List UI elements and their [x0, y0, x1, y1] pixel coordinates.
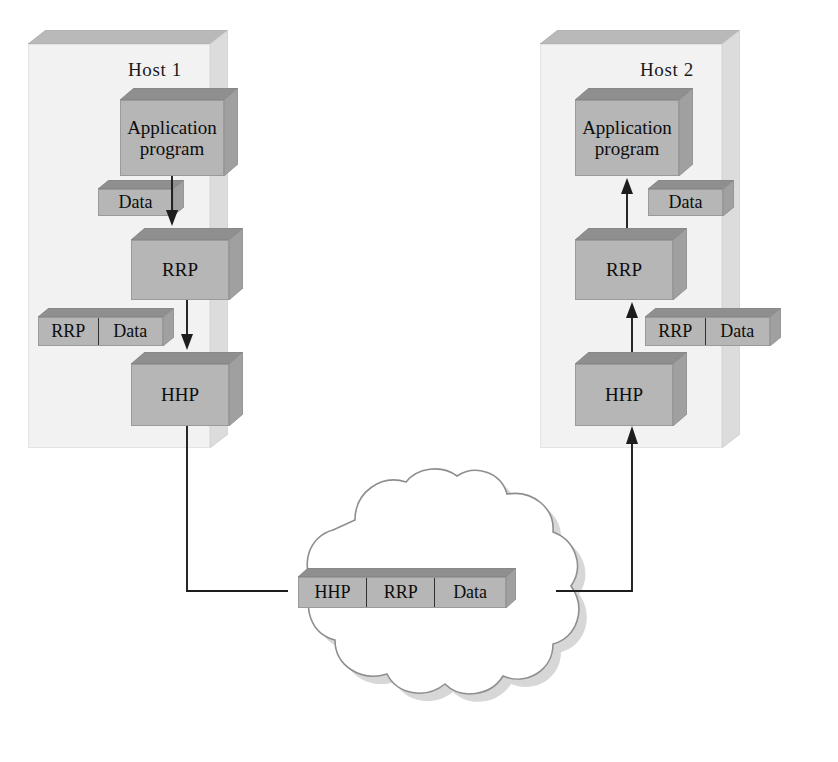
network-packet-face: HHP RRP Data: [298, 577, 506, 608]
network-packet-field-hhp: HHP: [299, 578, 366, 607]
host1-data-packet-face: Data: [98, 189, 173, 216]
host1-rrp-data-packet-face: RRP Data: [38, 317, 163, 346]
host2-rrp-data-packet-face: RRP Data: [645, 317, 770, 346]
network-packet-field-rrp: RRP: [366, 578, 434, 607]
host2-hhp-box: HHP: [575, 352, 687, 426]
host1-application-label-line2: program: [140, 138, 204, 159]
host2-application-label-line2: program: [595, 138, 659, 159]
host2-rrp-data-field-rrp: RRP: [646, 318, 705, 345]
host2-data-packet: Data: [648, 180, 734, 216]
host-1-label: Host 1: [128, 59, 182, 81]
host-2-label: Host 2: [640, 59, 694, 81]
host2-application-box-face: Application program: [575, 100, 679, 176]
host1-hhp-box-face: HHP: [131, 364, 229, 426]
host2-application-label-line1: Application: [582, 117, 672, 138]
host2-rrp-box-face: RRP: [575, 240, 673, 300]
host1-rrp-box-face: RRP: [131, 240, 229, 300]
host1-application-box-face: Application program: [120, 100, 224, 176]
host2-rrp-data-field-data: Data: [705, 318, 769, 345]
host1-hhp-box: HHP: [131, 352, 243, 426]
host1-rrp-data-packet: RRP Data: [38, 308, 174, 346]
host2-data-packet-field-data: Data: [649, 190, 722, 215]
host2-application-box: Application program: [575, 88, 693, 176]
host2-hhp-box-face: HHP: [575, 364, 673, 426]
host1-rrp-data-field-data: Data: [98, 318, 162, 345]
host2-rrp-box: RRP: [575, 228, 687, 300]
host2-rrp-data-packet: RRP Data: [645, 308, 781, 346]
host1-data-packet-field-data: Data: [99, 190, 172, 215]
diagram-canvas: Host 1 Application program Data RRP: [0, 0, 838, 762]
host1-data-packet: Data: [98, 180, 184, 216]
host2-data-packet-face: Data: [648, 189, 723, 216]
host1-rrp-box: RRP: [131, 228, 243, 300]
network-packet-field-data: Data: [434, 578, 505, 607]
host1-rrp-data-field-rrp: RRP: [39, 318, 98, 345]
host1-application-box: Application program: [120, 88, 238, 176]
network-packet: HHP RRP Data: [298, 568, 516, 608]
host1-application-label-line1: Application: [127, 117, 217, 138]
